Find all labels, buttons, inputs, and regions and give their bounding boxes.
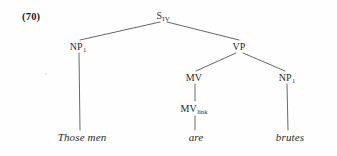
node-vp: VP xyxy=(233,41,246,52)
tree-edge-vp-to-mv xyxy=(196,53,236,71)
tree-edge-np-object-to-brutes xyxy=(287,84,288,130)
tree-edge-np-subject-to-those-men xyxy=(79,53,80,130)
terminal-object: brutes xyxy=(276,131,304,143)
node-np-subject: NP1 xyxy=(70,41,87,52)
node-s-root: SIV xyxy=(156,10,169,21)
tree-edge-s-to-np-subject xyxy=(80,22,160,40)
node-mv: MV xyxy=(186,72,202,83)
node-subscript: link xyxy=(197,108,208,115)
tree-edge-vp-to-np-object xyxy=(243,53,285,71)
syntax-tree-figure: (70) SIV NP1 VP MV NP1 MVlink Those men … xyxy=(0,0,337,156)
terminal-verb: are xyxy=(189,131,204,143)
tree-edge-s-to-vp xyxy=(167,22,239,40)
node-subscript: 1 xyxy=(83,46,87,53)
node-subscript: 1 xyxy=(292,77,296,84)
node-subscript: IV xyxy=(162,15,170,22)
node-np-object: NP1 xyxy=(279,72,296,83)
terminal-subject: Those men xyxy=(58,131,107,143)
node-mv-link: MVlink xyxy=(181,103,208,114)
